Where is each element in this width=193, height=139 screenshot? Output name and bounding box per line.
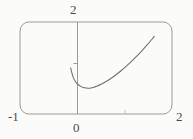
plot-frame: [20, 22, 172, 114]
axis-label-x-min: -1: [8, 110, 19, 123]
data-curve: [71, 36, 155, 88]
axis-label-origin: 0: [73, 121, 80, 134]
plot-canvas: [0, 0, 193, 139]
axis-label-y-max: 2: [70, 3, 77, 16]
plot-figure: 2 -1 2 0: [0, 0, 193, 139]
axis-label-x-max: 2: [176, 110, 183, 123]
